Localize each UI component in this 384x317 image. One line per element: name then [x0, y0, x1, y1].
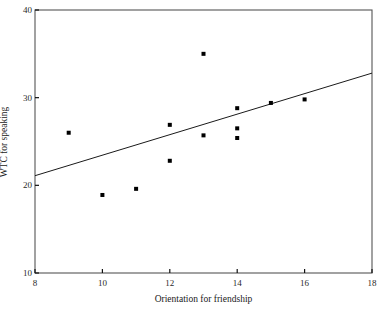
x-tick-label: 12: [165, 279, 174, 288]
plot-frame: [35, 10, 372, 273]
y-axis-title: WTC for speaking: [0, 106, 9, 177]
plot-frame-box: [35, 10, 372, 273]
data-point-marker: [202, 52, 206, 56]
data-point-marker: [303, 97, 307, 101]
x-tick-label: 18: [368, 279, 377, 288]
x-axis-title: Orientation for friendship: [155, 295, 253, 305]
regression-line: [35, 73, 372, 176]
x-tick-label: 14: [233, 279, 242, 288]
data-point-marker: [168, 123, 172, 127]
data-point-marker: [134, 187, 138, 191]
data-point-marker: [269, 101, 273, 105]
x-tick-label: 10: [98, 279, 107, 288]
data-point-marker: [67, 131, 71, 135]
data-point-marker: [235, 136, 239, 140]
data-point-marker: [235, 126, 239, 130]
data-point-marker: [168, 159, 172, 163]
trend-line: [35, 73, 372, 176]
data-point-marker: [202, 133, 206, 137]
scatter-plot-figure: 81012141618 10203040 Orientation for fri…: [0, 0, 384, 317]
data-point-marker: [235, 106, 239, 110]
x-tick-label: 16: [300, 279, 309, 288]
y-tick-label: 10: [12, 269, 32, 278]
axis-ticks: [35, 10, 372, 273]
x-tick-label: 8: [33, 279, 38, 288]
plot-canvas: [0, 0, 384, 317]
data-point-marker: [100, 193, 104, 197]
y-tick-label: 20: [12, 181, 32, 190]
y-tick-label: 30: [12, 93, 32, 102]
y-tick-label: 40: [12, 6, 32, 15]
data-points: [67, 52, 307, 197]
